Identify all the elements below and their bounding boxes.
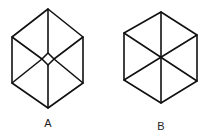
- diagram-canvas: A B: [0, 0, 201, 136]
- hexagon-a-spoke-lower-left: [12, 59, 42, 83]
- figure-a-label: A: [44, 117, 52, 129]
- hexagon-a-spoke-upper-left: [12, 37, 42, 59]
- hexagon-a-spoke-lower-right: [54, 59, 83, 83]
- figure-b: B: [124, 12, 197, 132]
- hexagon-a-spoke-upper-right: [54, 37, 83, 59]
- hexagon-a-center-diamond: [42, 53, 54, 65]
- figure-a: A: [12, 9, 83, 129]
- figure-b-label: B: [157, 120, 164, 132]
